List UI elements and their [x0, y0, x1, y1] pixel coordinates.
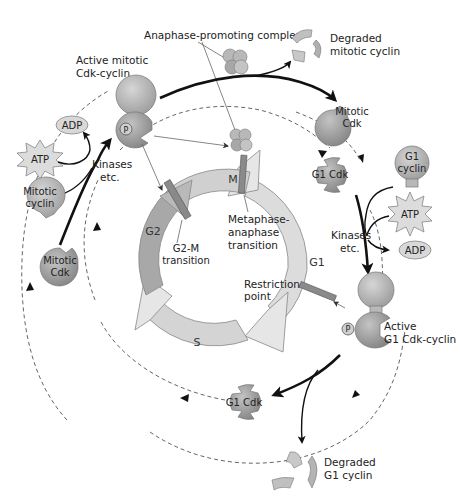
- mitotic-cdk-left-label-2: Cdk: [50, 267, 69, 278]
- atp-right-label: ATP: [401, 209, 419, 220]
- atp-left-label: ATP: [31, 154, 49, 165]
- active-g1-label-1: Active: [384, 320, 416, 332]
- cell-cycle-diagram: M G1 S G2 G2-M transition Metaphase- ana…: [0, 0, 460, 500]
- active-mitotic-label-2: Cdk-cyclin: [76, 67, 130, 79]
- metaphase-label-3: transition: [228, 239, 278, 251]
- g1-cdk-top-icon: G1 Cdk: [312, 158, 349, 193]
- adp-left-badge: ADP: [56, 116, 88, 134]
- kinases-right-label-2: etc.: [340, 242, 360, 254]
- mitotic-cdk-left-label-1: Mitotic: [43, 255, 77, 266]
- g1-cyclin-label-1: G1: [405, 151, 419, 162]
- adp-right-label: ADP: [405, 245, 426, 256]
- kinases-left-label-2: etc.: [100, 171, 120, 183]
- mitotic-cyclin-label-1: Mitotic: [23, 186, 57, 197]
- g1-cdk-top-label: G1 Cdk: [312, 169, 349, 180]
- apc-complex-top-icon: [223, 49, 248, 74]
- phosphate-right: P: [346, 325, 351, 334]
- mitotic-cyclin-label-2: cyclin: [26, 198, 55, 209]
- phase-label-s: S: [194, 336, 201, 349]
- g1-cyclin-icon: G1 cyclin: [395, 146, 429, 187]
- adp-left-label: ADP: [62, 120, 83, 131]
- phosphate-left: P: [124, 126, 129, 135]
- phase-label-g2: G2: [145, 225, 161, 238]
- g2m-transition-label-2: transition: [162, 255, 210, 266]
- degraded-mitotic-cyclin-icon: [292, 30, 321, 62]
- mitotic-cyclin-left-icon: Mitotic cyclin: [23, 177, 65, 218]
- atp-left-starburst: ATP: [17, 140, 63, 179]
- metaphase-label-2: anaphase: [228, 226, 279, 238]
- cell-cycle-ring: [135, 150, 307, 352]
- active-mitotic-label-1: Active mitotic: [76, 54, 149, 66]
- mitotic-cdk-right-label-1: Mitotic: [335, 106, 369, 117]
- degraded-mitotic-label-2: mitotic cyclin: [330, 45, 400, 57]
- mitotic-cdk-right-icon: Mitotic Cdk: [315, 106, 369, 146]
- kinases-right-label-1: Kinases: [331, 229, 371, 241]
- atp-right-starburst: ATP: [388, 192, 432, 236]
- apc-label: Anaphase-promoting complex: [144, 29, 302, 41]
- phase-label-m: M: [228, 173, 238, 186]
- degraded-g1-label-1: Degraded: [324, 456, 376, 468]
- restriction-point-label-2: point: [244, 290, 271, 302]
- g1-cdk-bottom-icon: G1 Cdk: [226, 385, 263, 420]
- active-g1-label-2: G1 Cdk-cyclin: [384, 333, 456, 345]
- degraded-g1-cyclin-icon: [272, 452, 317, 490]
- metaphase-label-1: Metaphase-: [228, 213, 290, 225]
- apc-complex-bottom-icon: [230, 129, 252, 151]
- restriction-point-label-1: Restriction: [244, 278, 300, 290]
- degraded-mitotic-label-1: Degraded: [330, 32, 382, 44]
- g2m-transition-label-1: G2-M: [173, 243, 199, 254]
- mitotic-cdk-left-icon: Mitotic Cdk: [40, 248, 78, 286]
- active-mitotic-cdk-cyclin-icon: P: [116, 75, 156, 148]
- g1-cyclin-label-2: cyclin: [398, 163, 427, 174]
- phase-label-g1: G1: [309, 256, 325, 269]
- kinases-left-label-1: Kinases: [92, 158, 132, 170]
- g1-cdk-bottom-label: G1 Cdk: [226, 397, 263, 408]
- degraded-g1-label-2: G1 cyclin: [324, 469, 372, 481]
- outer-dashed-cycle: [22, 90, 405, 463]
- adp-right-badge: ADP: [399, 241, 431, 259]
- restriction-point-bar: [299, 281, 336, 301]
- mitotic-cdk-right-label-2: Cdk: [342, 118, 361, 129]
